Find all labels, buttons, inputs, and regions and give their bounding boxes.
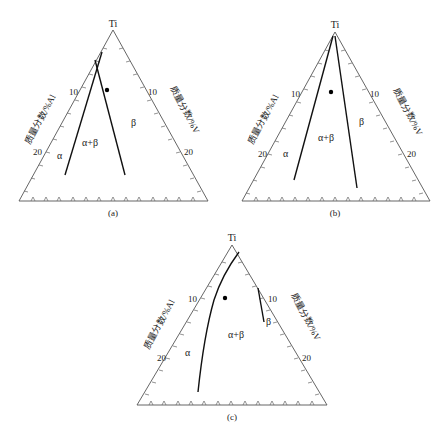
apex-label: Ti [228, 232, 237, 243]
alpha-boundary [294, 36, 333, 180]
region-alpha-beta: α+β [82, 137, 98, 148]
composition-point [329, 90, 333, 94]
svg-text:20: 20 [157, 353, 167, 363]
region-alpha: α [185, 347, 191, 358]
v-axis-label: 质量分数/%V [168, 84, 203, 136]
svg-text:20: 20 [258, 149, 268, 159]
svg-text:10: 10 [69, 87, 79, 97]
beta-boundary [335, 36, 357, 188]
region-beta: β [266, 316, 271, 327]
region-alpha-beta: α+β [318, 132, 334, 143]
panel-c: Ti 10 20 10 20 α α+β β 质量分数/%Al 质量分数/%V … [137, 232, 327, 422]
al-axis-label: 质量分数/%Al [22, 92, 58, 146]
region-beta: β [359, 116, 364, 127]
alpha-boundary [65, 52, 102, 175]
region-beta: β [131, 117, 136, 128]
region-alpha: α [57, 150, 63, 161]
caption: (b) [330, 208, 341, 218]
v-axis-label: 质量分数/%V [289, 291, 324, 343]
composition-point [223, 296, 227, 300]
svg-text:20: 20 [302, 353, 312, 363]
svg-text:20: 20 [33, 147, 43, 157]
caption: (c) [227, 412, 237, 422]
ternary-diagrams: Ti 10 20 10 20 α α+β β 质量分数/%Al 质量分数/%V … [0, 0, 444, 438]
apex-label: Ti [109, 18, 118, 29]
tick-marks [246, 50, 423, 201]
panel-a: Ti 10 20 10 20 α α+β β 质量分数/%Al 质量分数/%V … [19, 18, 208, 218]
beta-boundary [95, 60, 125, 175]
region-alpha: α [283, 148, 289, 159]
svg-text:20: 20 [184, 147, 194, 157]
alpha-boundary [198, 252, 239, 392]
region-alpha-beta: α+β [228, 329, 244, 340]
al-axis-label: 质量分数/%Al [245, 92, 281, 146]
v-axis-label: 质量分数/%V [391, 86, 426, 138]
svg-text:10: 10 [148, 87, 158, 97]
svg-text:10: 10 [291, 89, 301, 99]
al-axis-label: 质量分数/%Al [141, 297, 177, 351]
svg-text:10: 10 [188, 294, 198, 304]
caption: (a) [108, 208, 118, 218]
svg-text:10: 10 [268, 294, 278, 304]
composition-point [105, 88, 109, 92]
panel-b: Ti 10 20 10 20 α α+β β 质量分数/%Al 质量分数/%V … [242, 19, 430, 218]
apex-label: Ti [331, 19, 340, 30]
svg-text:20: 20 [407, 149, 417, 159]
svg-text:10: 10 [370, 89, 380, 99]
